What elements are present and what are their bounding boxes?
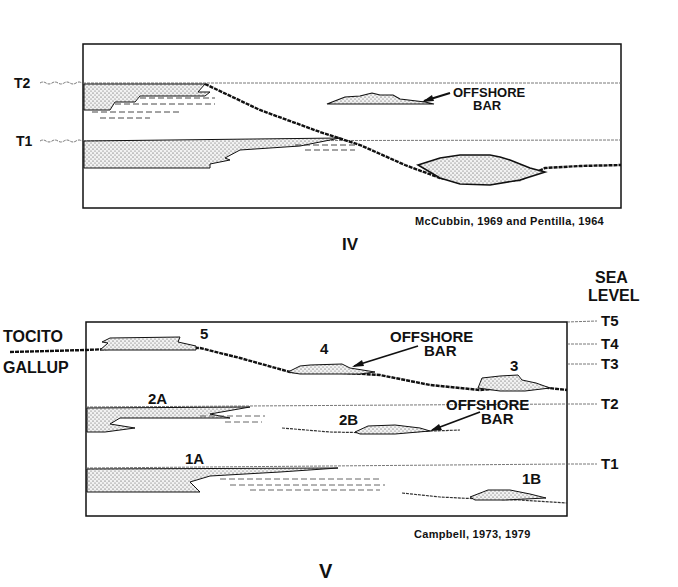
sand-body-1a [87,468,338,492]
sand-label-5: 5 [200,325,208,342]
panel-v: TOCITO GALLUP SEA LEVEL T5 T4 T3 T2 T1 5… [3,269,640,582]
sand-label-1a: 1A [185,450,204,467]
sand-body-1b [470,490,546,500]
sand-label-4: 4 [320,340,329,357]
panel-iv: T2 T1 OFFSHORE BAR McCubbin, 1969 and Pe… [14,44,621,254]
offshore-bar-upper [327,93,434,104]
sand-label-2a: 2A [148,390,167,407]
shale-dashes-1a [220,479,385,490]
offshore-bar-lower [418,155,545,185]
stratigraphic-diagram: T2 T1 OFFSHORE BAR McCubbin, 1969 and Pe… [0,0,678,587]
sea-level-title-line1: SEA [595,269,628,286]
offshore-bar-label-2b-line2: BAR [481,410,514,427]
offshore-bar-label-4-line2: BAR [424,342,457,359]
sand-body-3 [478,375,550,391]
t1-time-line-v [86,464,567,468]
t5-label: T5 [601,312,619,329]
formation-tocito: TOCITO [3,328,63,345]
sand-label-1b: 1B [522,470,541,487]
formation-gallup: GALLUP [3,359,69,376]
citation-iv: McCubbin, 1969 and Pentilla, 1964 [415,215,605,227]
offshore-bar-label-iv-line2: BAR [473,98,502,113]
offshore-bar-arrow-4 [354,346,418,366]
panel-iv-numeral: IV [342,235,359,254]
t2-label-v: T2 [601,395,619,412]
t1-label-iv: T1 [16,133,33,149]
panel-iv-frame [83,44,621,208]
t1-label-v: T1 [601,455,619,472]
sea-level-title-line2: LEVEL [588,287,640,304]
lower-shale-dashes [295,145,360,150]
lower-shoreface-sand [84,138,340,168]
citation-v: Campbell, 1973, 1979 [414,528,531,540]
t2-label-iv: T2 [14,75,31,91]
sand-label-2b: 2B [339,411,358,428]
sand-body-2a [87,407,250,432]
t4-label: T4 [601,335,619,352]
panel-v-numeral: V [319,560,333,582]
sand-label-3: 3 [510,357,518,374]
upper-shoreface-sand [84,84,210,110]
erosional-surface-iv [205,84,621,182]
sand-body-5 [100,337,196,350]
sand-body-2b [355,425,430,434]
t3-label: T3 [601,355,619,372]
time-line-leaders [567,321,597,464]
